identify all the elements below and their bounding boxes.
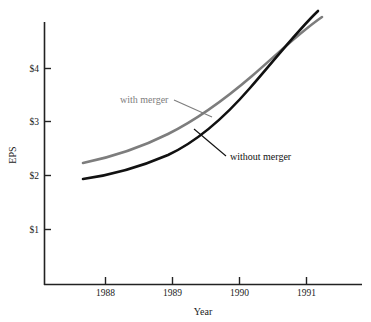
- x-tick-label-1990: 1990: [230, 288, 249, 298]
- x-tick-label-1989: 1989: [163, 288, 182, 298]
- chart-container: $4 $3 $2 $1 1988 1989 1990 1991 Year EPS…: [0, 0, 371, 322]
- y-tick-label-1: $1: [30, 225, 40, 235]
- x-axis-title: Year: [194, 306, 213, 317]
- annotation-without-merger: without merger: [230, 151, 292, 162]
- y-tick-label-2: $2: [30, 171, 40, 181]
- eps-line-chart: $4 $3 $2 $1 1988 1989 1990 1991 Year EPS…: [0, 0, 371, 322]
- y-tick-label-4: $4: [30, 64, 40, 74]
- without-merger-leader-line: [194, 129, 226, 156]
- annotation-with-merger: with merger: [120, 94, 169, 105]
- y-axis-ticks: [45, 69, 52, 230]
- y-axis-title: EPS: [7, 146, 18, 163]
- with-merger-leader-line: [174, 100, 212, 117]
- series-line-with-merger: [83, 17, 322, 163]
- x-tick-label-1988: 1988: [96, 288, 115, 298]
- y-tick-label-3: $3: [30, 117, 40, 127]
- x-tick-label-1991: 1991: [297, 288, 316, 298]
- x-axis-ticks: [106, 277, 307, 285]
